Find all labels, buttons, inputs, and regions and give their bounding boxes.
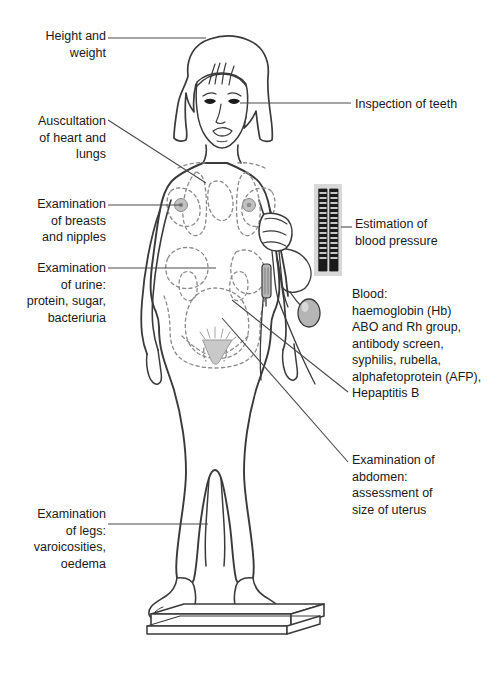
leader-auscultation <box>108 120 206 183</box>
inflation-bulb <box>298 299 320 327</box>
label-urine: Examination of urine: protein, sugar, ba… <box>4 260 106 326</box>
label-legs: Examination of legs: varoicosities, oede… <box>4 506 106 572</box>
label-auscultation: Auscultation of heart and lungs <box>14 113 106 163</box>
scale-base-front <box>147 626 287 634</box>
valve-cylinder <box>262 264 271 298</box>
label-teeth: Inspection of teeth <box>355 96 500 113</box>
nipple-right-center <box>247 203 252 208</box>
clavicle-right-dashed <box>238 163 265 168</box>
inflation-bulb-highlight <box>302 302 309 312</box>
diagram-page: Height and weight Auscultation of heart … <box>0 0 503 676</box>
label-blood-pressure: Estimation of blood pressure <box>355 216 500 249</box>
label-breasts-nipples: Examination of breasts and nipples <box>14 196 106 246</box>
label-blood-tests: Blood: haemoglobin (Hb) ABO and Rh group… <box>352 286 503 402</box>
label-abdomen: Examination of abdomen: assessment of si… <box>352 452 503 518</box>
label-height-weight: Height and weight <box>14 28 106 61</box>
hand-left <box>147 350 162 384</box>
